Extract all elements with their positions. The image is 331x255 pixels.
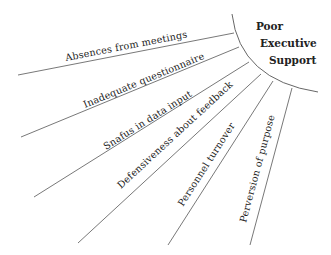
cause-label-personnel-turnover: Personnel turnover: [175, 120, 237, 208]
effect-label-line-3: Support: [269, 54, 316, 66]
effect-label-line-1: Poor: [256, 20, 284, 32]
effect-label-line-2: Executive: [260, 37, 317, 49]
diagram-canvas: Poor Executive Support Absences from mee…: [0, 0, 331, 255]
diagram-svg: Poor Executive Support Absences from mee…: [0, 0, 331, 255]
